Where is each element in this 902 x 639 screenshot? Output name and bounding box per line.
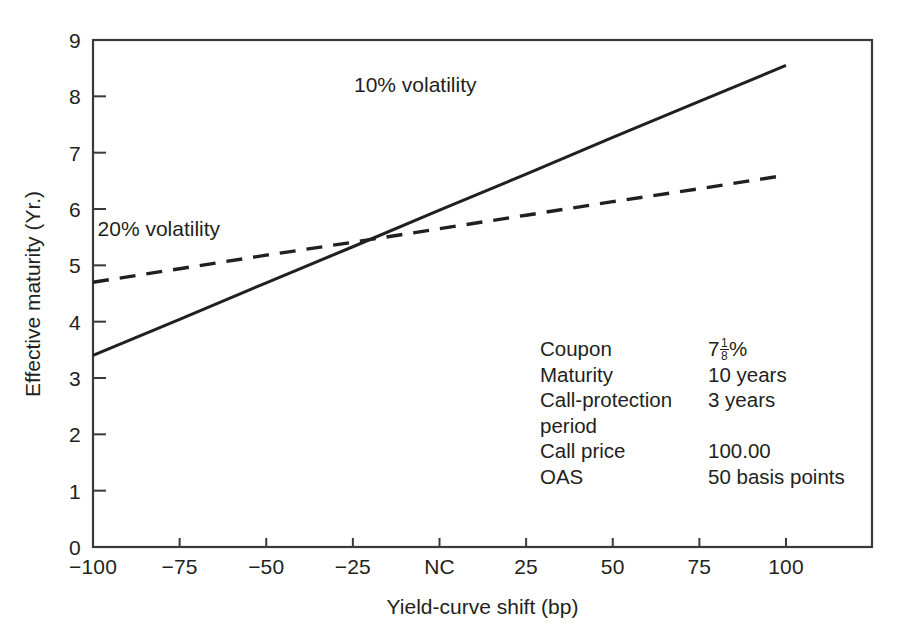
annotation-term: period [540, 413, 708, 439]
annotation-value-suffix: % [729, 337, 747, 360]
y-tick-label: 1 [69, 480, 81, 501]
y-tick-label: 0 [69, 537, 81, 558]
series-label-10-percent-volatility: 10% volatility [354, 73, 477, 97]
y-tick-label: 6 [69, 199, 81, 220]
x-tick-label: −25 [335, 556, 371, 577]
x-tick-label: 50 [601, 556, 625, 577]
x-tick-label: NC [424, 556, 455, 577]
y-tick-label: 2 [69, 424, 81, 445]
y-tick-label: 3 [69, 368, 81, 389]
x-axis-title: Yield-curve shift (bp) [387, 595, 579, 619]
x-tick-label: 100 [768, 556, 804, 577]
annotation-value: 3 years [708, 387, 775, 413]
x-tick-label: 25 [514, 556, 538, 577]
y-tick-label: 5 [69, 255, 81, 276]
annotation-value-fraction: 18 [720, 337, 729, 362]
x-tick-label: −50 [248, 556, 284, 577]
series-line-10-volatility [93, 65, 786, 355]
y-axis-title: Effective maturity (Yr.) [21, 190, 45, 396]
annotation-term: OAS [540, 464, 708, 490]
annotation-row: Call-protection3 years [540, 387, 845, 413]
annotation-term: Coupon [540, 336, 708, 362]
y-tick-label: 4 [69, 311, 81, 332]
fraction-denominator: 8 [720, 349, 729, 362]
annotation-value: 50 basis points [708, 464, 845, 490]
annotation-value-integer: 7 [708, 337, 719, 360]
x-axis-ticks [93, 538, 786, 547]
y-tick-label: 7 [69, 142, 81, 163]
x-tick-label: −75 [162, 556, 198, 577]
fraction-numerator: 1 [720, 337, 729, 349]
series-label-20-percent-volatility: 20% volatility [98, 217, 221, 241]
annotation-row: Coupon718% [540, 336, 845, 362]
annotation-row: Call price100.00 [540, 438, 845, 464]
annotation-value: 10 years [708, 362, 787, 388]
y-tick-label: 8 [69, 86, 81, 107]
annotation-term: Call-protection [540, 387, 708, 413]
annotation-value: 718% [708, 336, 747, 363]
x-tick-label: −100 [69, 556, 117, 577]
annotation-value: 100.00 [708, 438, 771, 464]
annotation-row: Maturity10 years [540, 362, 845, 388]
y-axis-ticks [93, 96, 106, 490]
y-tick-label: 9 [69, 30, 81, 51]
annotation-row: OAS50 basis points [540, 464, 845, 490]
x-tick-label: 75 [687, 556, 711, 577]
series-lines [93, 65, 786, 355]
annotation-term: Call price [540, 438, 708, 464]
chart-figure: −100−75−50−25NC255075100 0123456789 Effe… [0, 0, 902, 639]
bond-terms-annotation: Coupon718%Maturity10 yearsCall-protectio… [540, 336, 845, 490]
annotation-row: period [540, 413, 845, 439]
annotation-term: Maturity [540, 362, 708, 388]
